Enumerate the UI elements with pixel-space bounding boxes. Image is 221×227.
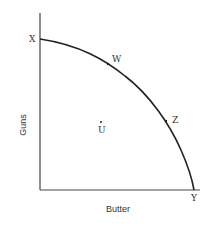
point-u-label: U <box>98 125 106 135</box>
x-axis-title: Butter <box>106 204 130 214</box>
y-axis-title: Guns <box>18 114 28 136</box>
point-w-marker <box>107 63 109 65</box>
point-u-marker <box>100 121 102 123</box>
point-w-label: W <box>112 54 122 64</box>
point-z-label: Z <box>172 115 178 125</box>
ppf-chart: X W Z Y U Guns Butter <box>0 0 221 227</box>
point-x-label: X <box>29 34 36 44</box>
point-z-marker <box>165 120 167 122</box>
point-y-label: Y <box>190 193 198 203</box>
